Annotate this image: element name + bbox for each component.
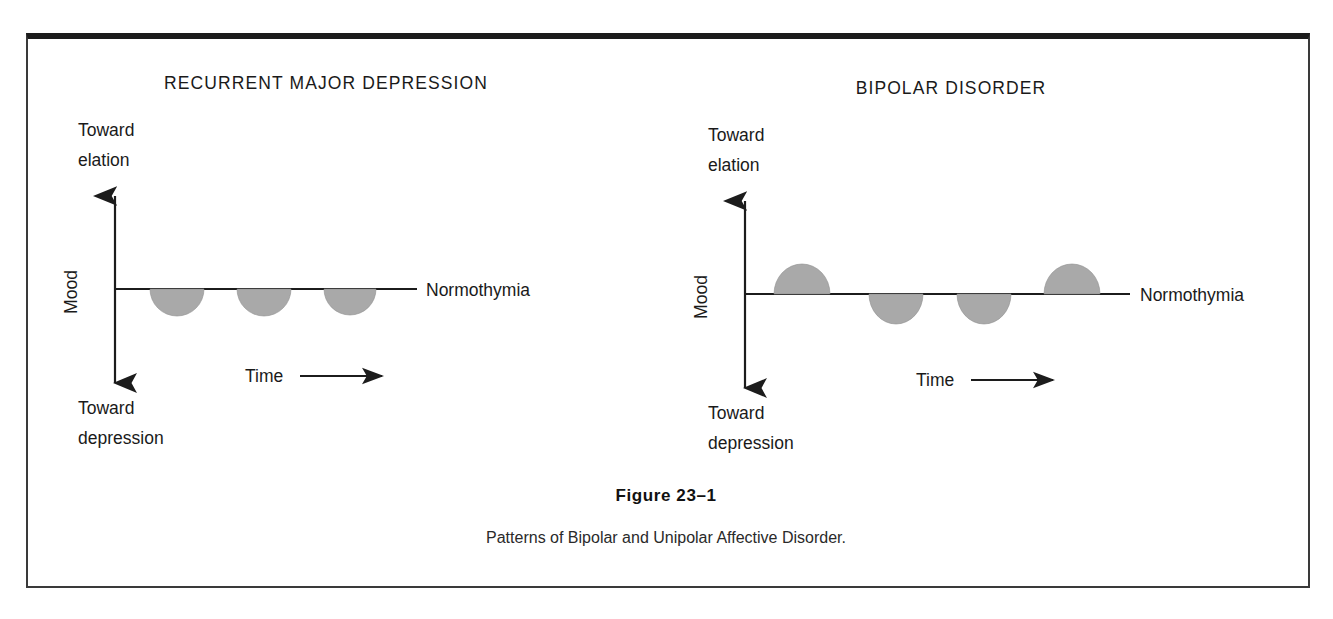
y-axis-label-right: Mood — [691, 275, 711, 319]
episode-depressive-2 — [237, 289, 291, 316]
episode-depressive-1 — [150, 289, 204, 316]
episode-manic-2 — [1044, 264, 1100, 294]
episode-manic-1 — [774, 264, 830, 294]
figure-caption-title: Figure 23–1 — [615, 486, 716, 505]
panel-bipolar-disorder: BIPOLAR DISORDER Toward elation Mood Nor… — [691, 78, 1244, 453]
normothymia-label-left: Normothymia — [426, 280, 530, 300]
axis-bottom-label-line1-left: Toward — [78, 398, 134, 418]
episode-depressive-2 — [957, 294, 1011, 324]
axis-bottom-label-line2-right: depression — [708, 433, 794, 453]
panel-recurrent-major-depression: RECURRENT MAJOR DEPRESSION Toward elatio… — [61, 73, 530, 448]
mood-pattern-diagram: RECURRENT MAJOR DEPRESSION Toward elatio… — [0, 0, 1333, 619]
x-axis-label-left: Time — [245, 366, 283, 386]
x-axis-label-right: Time — [916, 370, 954, 390]
axis-bottom-label-line1-right: Toward — [708, 403, 764, 423]
episode-depressive-3 — [324, 289, 376, 315]
axis-top-label-line1-right: Toward — [708, 125, 764, 145]
panel-title-bipolar-disorder: BIPOLAR DISORDER — [856, 78, 1047, 98]
normothymia-label-right: Normothymia — [1140, 285, 1244, 305]
figure-container: RECURRENT MAJOR DEPRESSION Toward elatio… — [0, 0, 1333, 619]
panel-title-recurrent-major-depression: RECURRENT MAJOR DEPRESSION — [164, 73, 488, 93]
y-axis-label-left: Mood — [61, 270, 81, 314]
episode-depressive-1 — [869, 294, 923, 324]
axis-top-label-line1-left: Toward — [78, 120, 134, 140]
axis-top-label-line2-left: elation — [78, 150, 130, 170]
axis-bottom-label-line2-left: depression — [78, 428, 164, 448]
episode-group-left — [150, 289, 376, 316]
figure-caption-text: Patterns of Bipolar and Unipolar Affecti… — [486, 529, 846, 546]
axis-top-label-line2-right: elation — [708, 155, 760, 175]
